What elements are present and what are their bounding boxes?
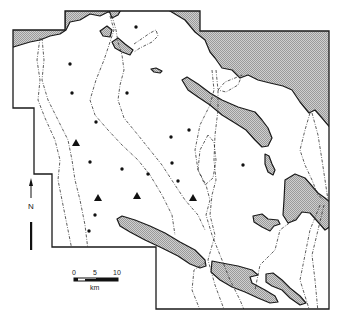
water-bodies bbox=[10, 8, 332, 305]
river-sw-a bbox=[192, 262, 206, 310]
river-far-east-b bbox=[312, 113, 328, 200]
lake-southwest-long bbox=[117, 216, 206, 268]
scale-tick-0: 0 bbox=[72, 269, 76, 276]
lagoon-north bbox=[100, 26, 112, 37]
scale-tick-5: 5 bbox=[93, 269, 97, 276]
site-dot-icon bbox=[120, 167, 123, 170]
map-canvas: N 0 5 10 km bbox=[0, 0, 341, 321]
river-north-loop bbox=[134, 30, 158, 52]
north-arrow: N bbox=[28, 178, 34, 250]
river-west-a bbox=[37, 38, 72, 250]
site-dot-icon bbox=[134, 25, 137, 28]
river-center-a bbox=[90, 16, 175, 235]
river-west-b bbox=[42, 38, 88, 250]
site-dot-icon bbox=[146, 172, 149, 175]
site-dot-icon bbox=[169, 135, 172, 138]
site-triangle-icon bbox=[189, 194, 197, 201]
site-dot-icon bbox=[170, 161, 173, 164]
scale-seg-2 bbox=[85, 279, 96, 281]
north-label: N bbox=[28, 202, 34, 211]
scale-seg-3 bbox=[96, 278, 118, 281]
scale-unit: km bbox=[90, 284, 100, 291]
lake-small-north bbox=[151, 68, 162, 73]
site-dot-icon bbox=[93, 213, 96, 216]
lake-central-east bbox=[182, 77, 272, 147]
river-east-loop bbox=[198, 135, 216, 185]
site-triangles bbox=[72, 139, 197, 201]
scale-bar: 0 5 10 km bbox=[72, 269, 121, 291]
river-lagoon-split bbox=[218, 75, 242, 92]
site-dot-icon bbox=[87, 229, 90, 232]
site-dot-icon bbox=[241, 163, 244, 166]
lake-southeast-small bbox=[253, 214, 280, 231]
scale-tick-10: 10 bbox=[113, 269, 121, 276]
site-triangle-icon bbox=[72, 139, 80, 146]
site-dot-icon bbox=[88, 160, 91, 163]
site-dot-icon bbox=[70, 91, 73, 94]
lake-east bbox=[283, 174, 332, 230]
site-triangle-icon bbox=[133, 192, 141, 199]
north-arrow-head-icon bbox=[29, 178, 33, 186]
north-arrow-tail bbox=[30, 222, 32, 250]
lagoon-inlet bbox=[112, 38, 133, 55]
scale-seg-1 bbox=[74, 278, 78, 281]
site-triangle-icon bbox=[94, 194, 102, 201]
site-dot-icon bbox=[68, 62, 71, 65]
site-dot-icon bbox=[176, 179, 179, 182]
site-dot-icon bbox=[125, 91, 128, 94]
site-dot-icon bbox=[94, 120, 97, 123]
lake-small-east bbox=[265, 154, 275, 175]
site-dot-icon bbox=[187, 128, 190, 131]
